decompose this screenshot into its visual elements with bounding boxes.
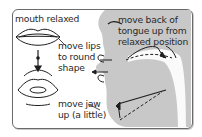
rounded-lips-icon [18, 70, 58, 106]
label-tongue-2: tongue up from [118, 25, 186, 36]
label-move-lips-2: to round [58, 51, 95, 62]
relaxed-lips-icon [16, 29, 60, 45]
label-move-lips-3: shape [58, 62, 85, 73]
label-move-jaw-1: move jaw [58, 98, 101, 109]
arrow-down-icon [35, 50, 41, 71]
label-tongue-1: move back of [118, 14, 178, 25]
label-move-lips-1: move lips [58, 40, 101, 51]
label-move-jaw-2: up (a little) [58, 109, 106, 120]
label-tongue-3: relaxed position [118, 36, 188, 47]
label-mouth-relaxed: mouth relaxed [15, 13, 79, 24]
